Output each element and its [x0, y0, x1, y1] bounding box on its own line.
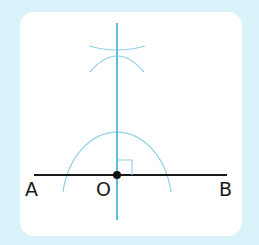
- point-o: [113, 171, 121, 179]
- label-a: A: [25, 178, 38, 200]
- label-b: B: [219, 178, 232, 200]
- label-o: O: [96, 178, 111, 200]
- construction-diagram: A O B: [0, 0, 259, 245]
